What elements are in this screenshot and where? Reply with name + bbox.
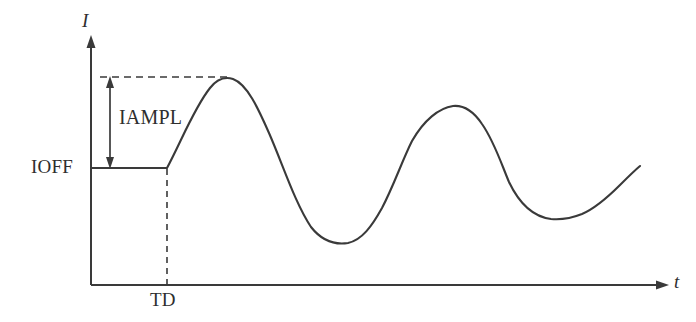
- sine-source-waveform-figure: I t IOFF IAMPL TD: [0, 0, 696, 322]
- iampl-measure-arrow: [106, 76, 114, 169]
- damped-sine-curve: [167, 78, 640, 243]
- ioff-label: IOFF: [31, 157, 73, 176]
- x-axis-arrowhead: [656, 281, 669, 290]
- iampl-label: IAMPL: [119, 107, 182, 127]
- y-axis: [87, 35, 96, 285]
- waveform-plot: [0, 0, 696, 322]
- y-axis-arrowhead: [87, 35, 96, 48]
- x-axis-label: t: [674, 272, 679, 291]
- iampl-arrowhead-up: [106, 76, 114, 88]
- td-label: TD: [150, 290, 176, 309]
- x-axis: [91, 281, 669, 290]
- y-axis-label: I: [82, 11, 88, 30]
